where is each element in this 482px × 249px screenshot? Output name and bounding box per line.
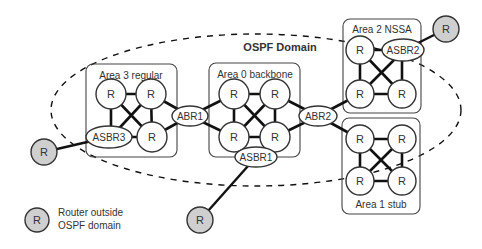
legend: R Router outside OSPF domain [25, 207, 123, 232]
legend-symbol-label: R [33, 214, 41, 226]
router: R [388, 80, 416, 108]
asbr2: ASBR2 [382, 39, 424, 61]
router: R [137, 122, 167, 152]
abr1: ABR1 [172, 106, 208, 126]
legend-line-2: OSPF domain [58, 220, 121, 231]
svg-text:R: R [230, 88, 238, 100]
ospf-domain-title: OSPF Domain [243, 41, 317, 53]
svg-text:ABR1: ABR1 [177, 111, 204, 122]
svg-text:R: R [271, 88, 279, 100]
svg-text:ASBR2: ASBR2 [387, 45, 420, 56]
router: R [346, 80, 374, 108]
svg-text:R: R [356, 88, 364, 100]
legend-line-1: Router outside [58, 207, 123, 218]
svg-text:R: R [147, 88, 155, 100]
svg-text:R: R [398, 88, 406, 100]
router: R [96, 79, 126, 109]
svg-text:R: R [356, 44, 364, 56]
svg-text:ABR2: ABR2 [305, 111, 332, 122]
router: R [260, 79, 290, 109]
external-router-top-right: R [433, 16, 459, 42]
svg-text:R: R [196, 214, 204, 226]
router: R [346, 125, 374, 153]
svg-text:R: R [107, 88, 115, 100]
asbr1: ASBR1 [235, 147, 277, 167]
svg-text:R: R [356, 133, 364, 145]
asbr3: ASBR3 [86, 126, 132, 148]
svg-text:ASBR3: ASBR3 [93, 132, 126, 143]
svg-text:R: R [148, 131, 156, 143]
abr2: ABR2 [299, 106, 337, 126]
external-router-bottom: R [187, 207, 213, 233]
svg-text:R: R [356, 175, 364, 187]
area-3-routers: R R R ASBR3 [86, 79, 167, 152]
router: R [219, 122, 249, 152]
svg-text:R: R [442, 23, 450, 35]
area-2-routers: R R R ASBR2 [346, 36, 424, 108]
svg-text:R: R [230, 131, 238, 143]
external-router-left: R [31, 139, 57, 165]
svg-text:ASBR1: ASBR1 [240, 152, 273, 163]
router: R [346, 36, 374, 64]
links [44, 29, 446, 220]
svg-text:R: R [271, 131, 279, 143]
ospf-domain-diagram: OSPF Domain Area 3 regular Area 0 backbo… [0, 0, 482, 249]
area-0-label: Area 0 backbone [217, 69, 293, 80]
router: R [346, 167, 374, 195]
router: R [388, 167, 416, 195]
area-2-label: Area 2 NSSA [352, 24, 412, 35]
svg-text:R: R [398, 175, 406, 187]
svg-text:R: R [40, 146, 48, 158]
svg-text:R: R [398, 133, 406, 145]
router: R [388, 125, 416, 153]
router: R [136, 79, 166, 109]
area-1-label: Area 1 stub [355, 199, 407, 210]
router: R [219, 79, 249, 109]
